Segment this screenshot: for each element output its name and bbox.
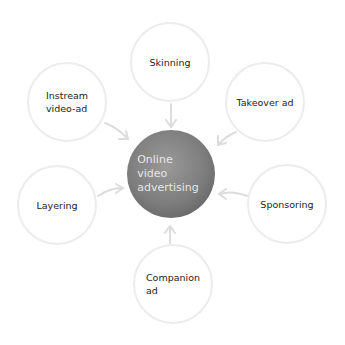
node-sponsoring: Sponsoring (247, 164, 327, 244)
hub-label: Online video advertising (137, 153, 199, 195)
node-label: Takeover ad (236, 96, 293, 109)
node-skinning: Skinning (130, 22, 210, 102)
node-label: Layering (36, 199, 77, 212)
node-label: Companion ad (146, 271, 200, 297)
node-takeover: Takeover ad (225, 62, 305, 142)
node-layering: Layering (17, 165, 97, 245)
node-label: Sponsoring (260, 198, 313, 211)
node-companion: Companion ad (133, 244, 213, 324)
node-label: Instream video-ad (46, 89, 88, 115)
node-instream: Instream video-ad (27, 62, 107, 142)
center-hub: Online video advertising (127, 130, 215, 218)
node-label: Skinning (150, 56, 191, 69)
